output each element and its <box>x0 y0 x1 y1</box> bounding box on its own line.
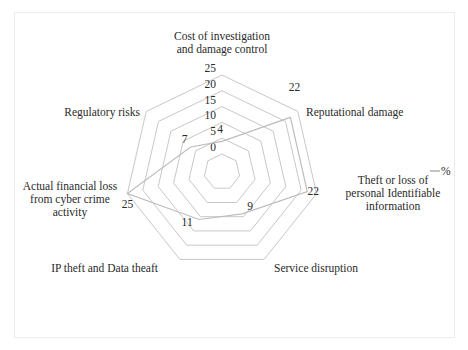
grid-ring <box>127 75 316 259</box>
legend-label: % <box>441 165 451 177</box>
data-label: 25 <box>122 198 134 210</box>
data-label: 4 <box>217 123 223 135</box>
grid-ring <box>189 138 255 202</box>
data-label: 22 <box>289 81 301 93</box>
grid-ring <box>205 154 240 188</box>
data-label: 9 <box>247 200 253 212</box>
axis-category-label: Reputational damage <box>306 106 403 119</box>
data-label: 7 <box>182 133 188 145</box>
radar-chart: 051015202542222911257Cost of investigati… <box>0 0 468 350</box>
radar-grid <box>127 75 316 259</box>
radial-tick-label: 5 <box>210 125 216 137</box>
axis-category-label: Regulatory risks <box>64 106 140 119</box>
radial-tick-label: 10 <box>205 109 217 121</box>
axis-category-label: Service disruption <box>274 262 358 275</box>
axis-category-label: Cost of investigationand damage control <box>174 30 270 56</box>
data-label: 11 <box>182 216 193 228</box>
axis-category-label: Theft or loss ofpersonal Identifiableinf… <box>346 174 441 212</box>
axis-category-label: Actual financial lossfrom cyber crimeact… <box>23 180 118 219</box>
axis-category-label: IP theft and Data theaft <box>51 262 159 274</box>
legend: % <box>430 165 451 177</box>
radial-tick-label: 25 <box>205 62 217 74</box>
radial-tick-label: 15 <box>205 94 217 106</box>
radial-tick-label: 20 <box>205 78 217 90</box>
grid-ring <box>143 91 301 245</box>
data-label: 22 <box>308 185 320 197</box>
